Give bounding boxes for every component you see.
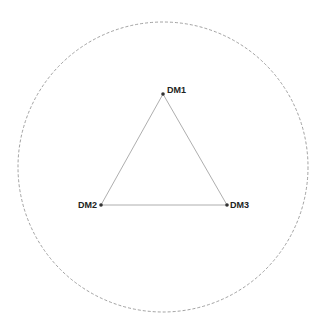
node-label-dm1: DM1 [167,85,186,95]
node-label-dm2: DM2 [78,200,97,210]
boundary-circle [18,22,308,312]
diagram-canvas: DM1 DM2 DM3 [0,0,327,333]
node-dm2[interactable] [99,203,103,207]
edge-dm3-dm1 [163,94,227,205]
nodes: DM1 DM2 DM3 [78,85,249,210]
node-dm1[interactable] [161,92,165,96]
node-dm3[interactable] [225,203,229,207]
edge-dm1-dm2 [101,94,163,205]
node-label-dm3: DM3 [230,200,249,210]
edges [101,94,227,205]
